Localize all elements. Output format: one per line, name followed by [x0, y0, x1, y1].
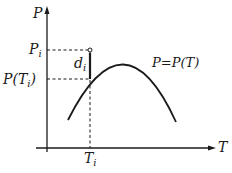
y-axis-label: P	[32, 5, 43, 21]
d-i-label: di	[74, 55, 86, 73]
diagram-canvas: P T Pi P(Ti) di Ti P=P(T)	[0, 0, 232, 173]
p-i-label: Pi	[28, 41, 42, 59]
p-t-i-label: P(Ti)	[2, 71, 36, 89]
curve-p-of-t	[68, 64, 176, 122]
data-point-marker	[88, 48, 92, 52]
x-axis-label: T	[218, 139, 229, 155]
y-axis-arrow-icon	[45, 6, 50, 14]
x-axis-arrow-icon	[208, 146, 216, 151]
curve-label: P=P(T)	[151, 55, 199, 70]
t-i-label: Ti	[84, 150, 97, 168]
